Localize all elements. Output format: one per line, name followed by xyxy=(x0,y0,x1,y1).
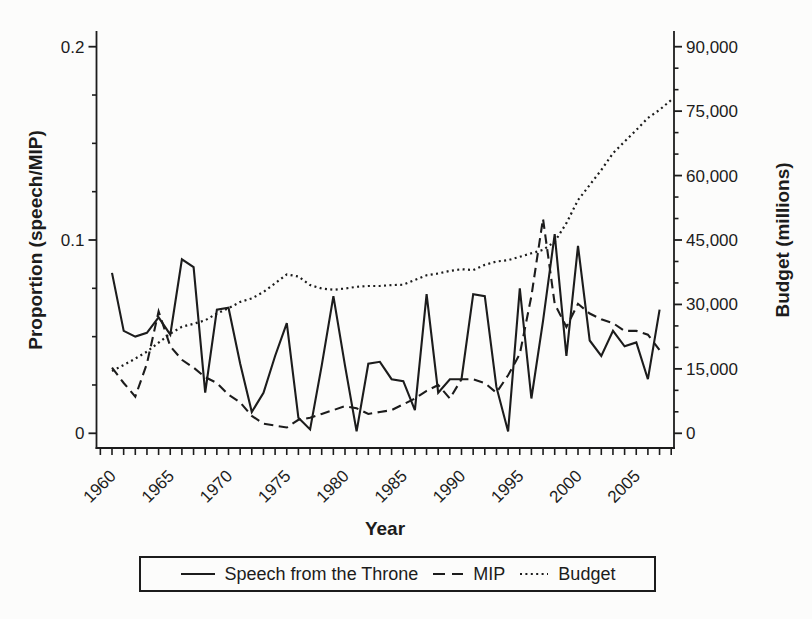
legend-label-budget: Budget xyxy=(558,564,615,585)
y-axis-title-right: Budget (millions) xyxy=(772,40,796,440)
x-axis-tick-label: 1995 xyxy=(487,466,527,506)
right-axis-tick-label: 15,000 xyxy=(686,360,738,379)
x-axis-tick-label: 1985 xyxy=(371,466,411,506)
x-axis-tick-label: 1980 xyxy=(313,466,353,506)
x-axis-tick-label: 1960 xyxy=(80,466,120,506)
series-line-budget xyxy=(112,100,671,371)
legend-label-mip: MIP xyxy=(473,564,505,585)
x-axis-tick-label: 1990 xyxy=(429,466,469,506)
x-axis-tick-label: 1970 xyxy=(196,466,236,506)
legend: Speech from the Throne MIP Budget xyxy=(139,556,656,592)
x-axis-tick-label: 1975 xyxy=(254,466,294,506)
right-axis-tick-label: 45,000 xyxy=(686,231,738,250)
right-axis-tick-label: 60,000 xyxy=(686,167,738,186)
x-axis-tick-label: 1965 xyxy=(138,466,178,506)
right-axis-tick-label: 90,000 xyxy=(686,38,738,57)
left-axis-tick-label: 0.2 xyxy=(61,38,85,57)
legend-label-speech: Speech from the Throne xyxy=(225,564,419,585)
chart-figure: 00.10.2015,00030,00045,00060,00075,00090… xyxy=(0,0,812,619)
legend-sample-dotted-line xyxy=(519,568,549,580)
legend-sample-dashed-line xyxy=(432,568,464,580)
left-axis-tick-label: 0 xyxy=(75,424,84,443)
legend-item-budget: Budget xyxy=(519,564,615,585)
x-axis-title: Year xyxy=(285,518,485,540)
x-axis-tick-label: 2000 xyxy=(546,466,586,506)
series-line-speech-from-the-throne xyxy=(112,234,660,431)
legend-sample-solid-line xyxy=(180,568,216,580)
right-axis-tick-label: 75,000 xyxy=(686,102,738,121)
x-axis-tick-label: 2005 xyxy=(604,466,644,506)
left-axis-tick-label: 0.1 xyxy=(61,231,85,250)
y-axis-title-left: Proportion (speech/MIP) xyxy=(25,40,49,440)
right-axis-tick-label: 30,000 xyxy=(686,295,738,314)
legend-item-mip: MIP xyxy=(432,564,505,585)
legend-item-speech: Speech from the Throne xyxy=(180,564,419,585)
right-axis-tick-label: 0 xyxy=(686,424,695,443)
